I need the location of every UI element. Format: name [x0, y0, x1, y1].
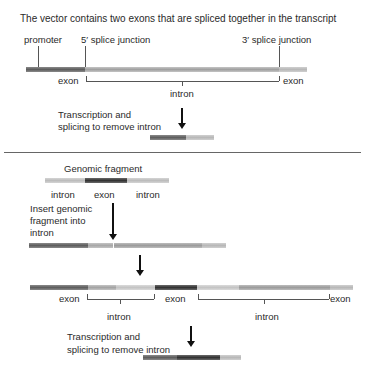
fragment-label: intron [51, 189, 75, 200]
section-divider [4, 152, 361, 153]
exon-segment [30, 285, 88, 290]
intron-segment [88, 285, 116, 290]
insert-label: fragment into [30, 215, 85, 226]
exon-label: exon [58, 75, 79, 86]
fragment-label: intron [136, 189, 160, 200]
exon-segment [186, 135, 214, 140]
splice-5-label: 5′ splice junction [81, 34, 150, 45]
diagram-title: The vector contains two exons that are s… [20, 13, 336, 24]
exon-segment [330, 285, 353, 290]
exon-segment [143, 355, 177, 360]
exon-segment [177, 355, 220, 360]
step-label: Transcription and [67, 331, 140, 342]
result-vector-bar [30, 285, 353, 290]
promoter-label: promoter [24, 34, 62, 45]
exon-segment [29, 243, 88, 248]
intron-segment [116, 285, 155, 290]
splice-3-label: 3′ splice junction [242, 34, 311, 45]
genomic-fragment-bar [45, 178, 169, 183]
exon-label: exon [165, 293, 186, 304]
exon-label: exon [283, 75, 304, 86]
insert-label: intron [30, 227, 54, 238]
intron-segment [239, 285, 330, 290]
down-arrow-icon [139, 255, 141, 271]
step-label: Transcription and [58, 109, 131, 120]
intron-segment [127, 178, 169, 183]
bracket-tick [264, 299, 265, 304]
fragment-title: Genomic fragment [64, 163, 142, 174]
promoter-pointer [38, 46, 39, 68]
exon-segment [26, 67, 85, 72]
exon-segment [279, 67, 307, 72]
exon-segment [85, 178, 127, 183]
step-label: splicing to remove intron [67, 344, 170, 355]
intron-segment [114, 243, 202, 248]
intron-label: intron [255, 311, 279, 322]
exon-segment [220, 355, 241, 360]
intron-segment [88, 243, 113, 248]
bracket-tick [154, 294, 155, 299]
bracket-tick [120, 299, 121, 304]
splice-3-pointer [279, 46, 280, 68]
exon-label: exon [330, 293, 351, 304]
bracket-tick [182, 81, 183, 86]
intron-segment [197, 285, 239, 290]
intron-segment [45, 178, 85, 183]
exon-segment [150, 135, 186, 140]
fragment-label: exon [94, 189, 115, 200]
intron-label: intron [170, 88, 194, 99]
down-arrow-icon [112, 203, 114, 235]
vector-bar [26, 67, 307, 72]
down-arrow-icon [181, 108, 183, 124]
insert-label: Insert genomic [30, 203, 92, 214]
insert-vector-bar [29, 243, 226, 248]
intron-segment [85, 67, 279, 72]
intron-label: intron [107, 311, 131, 322]
bracket-tick [279, 76, 280, 81]
final-transcript-bar [143, 355, 241, 360]
transcript-bar [150, 135, 214, 140]
down-arrow-icon [190, 326, 192, 342]
step-label: splicing to remove intron [58, 121, 161, 132]
splice-5-pointer [85, 46, 86, 68]
exon-segment [155, 285, 197, 290]
exon-label: exon [59, 293, 80, 304]
exon-segment [202, 243, 226, 248]
